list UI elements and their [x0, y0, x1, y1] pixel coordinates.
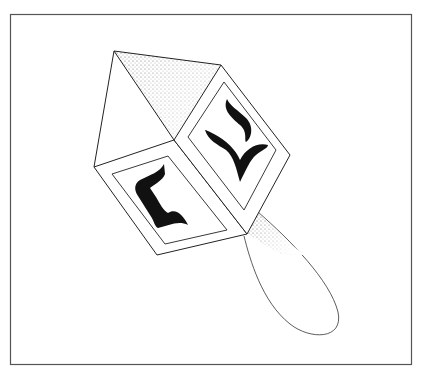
dreidel-handle — [244, 212, 339, 335]
dreidel-illustration — [0, 0, 421, 373]
